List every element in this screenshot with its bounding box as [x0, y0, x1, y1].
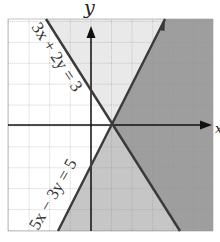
y-axis-label: y — [83, 0, 95, 18]
inequality-graph: y x 3x + 2y = 3 5x − 3y = 5 — [0, 0, 220, 242]
x-axis-label: x — [215, 121, 220, 136]
